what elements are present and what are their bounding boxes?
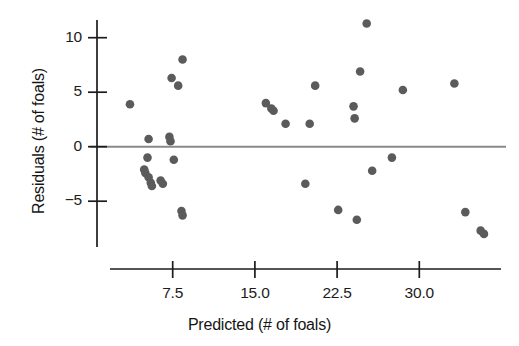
data-point [143, 153, 152, 162]
data-point [334, 206, 343, 215]
data-points-layer [126, 19, 489, 238]
data-point [170, 155, 179, 164]
data-point [126, 100, 135, 109]
x-tick-label: 22.5 [297, 284, 377, 302]
data-point [350, 114, 359, 123]
data-point [178, 55, 187, 64]
data-point [480, 230, 489, 239]
y-axis [88, 20, 107, 247]
data-point [148, 182, 157, 191]
y-axis-title: Residuals (# of foals) [30, 16, 48, 266]
x-axis-title: Predicted (# of foals) [0, 316, 519, 334]
data-point [353, 215, 362, 224]
data-point [305, 120, 314, 129]
data-point [349, 102, 358, 111]
data-point [269, 106, 278, 115]
data-point [144, 135, 153, 144]
data-point [311, 81, 320, 90]
data-point [362, 19, 371, 28]
x-tick-label: 30.0 [379, 284, 459, 302]
data-point [450, 79, 459, 88]
data-point [399, 86, 408, 95]
x-tick-label: 7.5 [133, 284, 213, 302]
data-point [388, 153, 397, 162]
residual-plot-figure: 10 5 0 −5 7.5 15.0 22.5 30.0 Predicted (… [0, 0, 519, 346]
data-point [174, 81, 183, 90]
data-point [356, 67, 365, 76]
x-axis [110, 261, 501, 278]
data-point [159, 179, 168, 188]
data-point [368, 166, 377, 175]
data-point [301, 179, 310, 188]
x-tick-label: 15.0 [215, 284, 295, 302]
data-point [461, 208, 470, 217]
data-point [166, 137, 175, 146]
data-point [167, 74, 176, 83]
data-point [281, 120, 290, 129]
data-point [178, 211, 187, 220]
